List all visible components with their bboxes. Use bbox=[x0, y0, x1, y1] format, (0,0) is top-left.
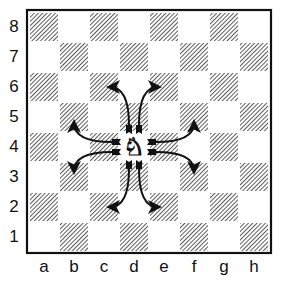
square-c4 bbox=[90, 133, 118, 161]
square-b1 bbox=[60, 223, 88, 251]
square-f7 bbox=[180, 43, 208, 71]
square-d5 bbox=[120, 103, 148, 131]
square-a6 bbox=[30, 73, 58, 101]
square-h7 bbox=[240, 43, 268, 71]
square-d1 bbox=[120, 223, 148, 251]
square-g2 bbox=[210, 193, 238, 221]
square-f1 bbox=[180, 223, 208, 251]
square-c8 bbox=[90, 13, 118, 41]
square-a4 bbox=[30, 133, 58, 161]
square-d3 bbox=[120, 163, 148, 191]
square-b7 bbox=[60, 43, 88, 71]
square-e4 bbox=[150, 133, 178, 161]
square-h3 bbox=[240, 163, 268, 191]
chessboard: ♞ bbox=[0, 0, 283, 285]
knight-piece: ♞ bbox=[123, 133, 145, 161]
square-a8 bbox=[30, 13, 58, 41]
square-d7 bbox=[120, 43, 148, 71]
knight-icon: ♞ bbox=[123, 133, 145, 161]
square-g8 bbox=[210, 13, 238, 41]
square-h5 bbox=[240, 103, 268, 131]
chess-knight-moves-diagram: 8 7 6 5 4 3 2 1 a b c d e f g h ♞ bbox=[0, 0, 283, 285]
square-h1 bbox=[240, 223, 268, 251]
square-a2 bbox=[30, 193, 58, 221]
square-g4 bbox=[210, 133, 238, 161]
square-g6 bbox=[210, 73, 238, 101]
square-e8 bbox=[150, 13, 178, 41]
